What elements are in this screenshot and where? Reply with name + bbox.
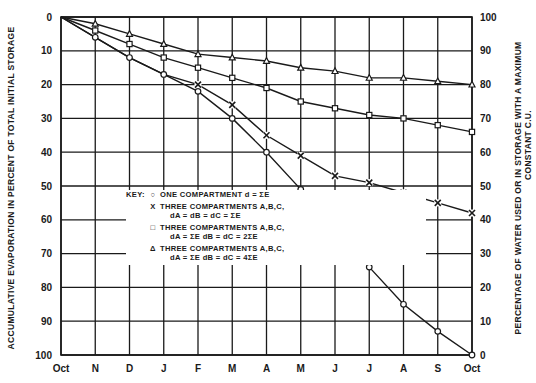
x-tick-label: F [195,363,201,374]
circle-marker-icon: ○ [148,190,158,199]
x-marker-icon [195,81,202,88]
right-tick-label: 10 [480,316,492,327]
right-axis-ticks: 1009080706050403020100 [480,12,497,361]
triangle-marker-icon [264,58,270,64]
x-tick-label: J [366,363,372,374]
chart-legend: KEY: ○ ONE COMPARTMENT d = ΣE X THREE CO… [126,190,426,265]
right-tick-label: 60 [480,147,492,158]
x-tick-label: A [263,363,270,374]
x-axis-ticks: OctNDJFMAMJJASOct [53,363,481,374]
circle-marker-icon [92,34,98,40]
square-marker-icon [469,129,474,134]
right-tick-label: 70 [480,113,492,124]
left-tick-label: 50 [41,181,53,192]
square-marker-icon [127,41,132,46]
legend-item-one-compartment: KEY: ○ ONE COMPARTMENT d = ΣE [126,190,426,199]
right-tick-label: 20 [480,282,492,293]
triangle-marker-icon [366,75,372,81]
legend-key-label: KEY: [126,190,145,199]
x-tick-label: M [228,363,236,374]
left-tick-label: 40 [41,147,53,158]
triangle-marker-icon [298,64,304,70]
right-tick-label: 100 [480,12,497,23]
square-marker-icon [93,28,98,33]
circle-marker-icon [161,72,167,78]
legend-item-sublabel: dA = ΣE dB = dC = 4ΣE [160,253,426,262]
triangle-marker-icon [127,31,133,37]
left-tick-label: 30 [41,113,53,124]
left-tick-label: 100 [35,350,52,361]
x-marker-icon [469,210,476,217]
x-marker-icon: X [148,202,158,211]
square-marker-icon [435,123,440,128]
x-marker-icon [366,179,373,186]
square-marker-icon [298,99,303,104]
circle-marker-icon [366,264,372,270]
left-tick-label: 20 [41,79,53,90]
legend-item-label: ONE COMPARTMENT d = ΣE [160,190,270,199]
legend-item-three-equal: X THREE COMPARTMENTS A,B,C, dA = dB = dC… [126,202,426,220]
right-tick-label: 80 [480,79,492,90]
square-marker-icon [401,116,406,121]
x-marker-icon [332,172,339,179]
circle-marker-icon [229,116,235,122]
right-tick-label: 90 [480,45,492,56]
circle-marker-icon [469,352,475,358]
circle-marker-icon [127,55,133,61]
square-marker-icon [230,75,235,80]
x-marker-icon [263,132,270,139]
legend-item-label: THREE COMPARTMENTS A,B,C, [160,244,284,253]
square-marker-icon [332,106,337,111]
legend-item-sublabel: dA = ΣE dB = dC = 2ΣE [160,232,426,241]
triangle-marker-icon [332,68,338,74]
triangle-marker-icon: Δ [148,244,158,253]
triangle-marker-icon [229,54,235,60]
x-tick-label: A [400,363,407,374]
x-tick-label: Oct [53,363,70,374]
right-tick-label: 50 [480,181,492,192]
circle-marker-icon [195,89,201,95]
triangle-marker-icon [195,51,201,57]
legend-item-three-2x: □ THREE COMPARTMENTS A,B,C, dA = ΣE dB =… [126,223,426,241]
right-tick-label: 40 [480,214,492,225]
right-axis-label-line2: CONSTANT C.U. [523,110,533,180]
x-tick-label: D [126,363,133,374]
x-tick-label: N [92,363,99,374]
triangle-marker-icon [92,20,98,26]
square-marker-icon [195,65,200,70]
legend-item-sublabel: dA = dB = dC = ΣE [160,211,426,220]
legend-item-label: THREE COMPARTMENTS A,B,C, [160,223,284,232]
plot-grid [61,17,472,355]
triangle-marker-icon [469,81,475,87]
left-axis-label: ACCUMULATIVE EVAPORATION IN PERCENT OF T… [6,27,16,350]
left-tick-label: 70 [41,248,53,259]
x-tick-label: M [297,363,305,374]
legend-item-label: THREE COMPARTMENTS A,B,C, [160,202,284,211]
data-series [61,17,476,358]
circle-marker-icon [401,302,407,308]
left-tick-label: 80 [41,282,53,293]
left-tick-label: 10 [41,45,53,56]
x-tick-label: J [161,363,167,374]
x-marker-icon [229,101,236,108]
right-axis-label-line1: PERCENTAGE OF WATER USED OR IN STORAGE W… [513,42,523,335]
left-tick-label: 0 [46,12,52,23]
circle-marker-icon [264,149,270,155]
square-marker-icon: □ [148,223,158,232]
square-marker-icon [161,55,166,60]
x-tick-label: J [332,363,338,374]
square-marker-icon [367,112,372,117]
x-tick-label: Oct [464,363,481,374]
square-marker-icon [264,85,269,90]
legend-item-three-4x: Δ THREE COMPARTMENTS A,B,C, dA = ΣE dB =… [126,244,426,262]
left-tick-label: 90 [41,316,53,327]
triangle-marker-icon [435,78,441,84]
triangle-marker-icon [401,75,407,81]
triangle-marker-icon [161,41,167,47]
circle-marker-icon [435,329,441,335]
right-tick-label: 0 [480,350,486,361]
x-marker-icon [434,199,441,206]
left-axis-ticks: 0102030405060708090100 [35,12,52,361]
right-tick-label: 30 [480,248,492,259]
x-tick-label: S [434,363,441,374]
